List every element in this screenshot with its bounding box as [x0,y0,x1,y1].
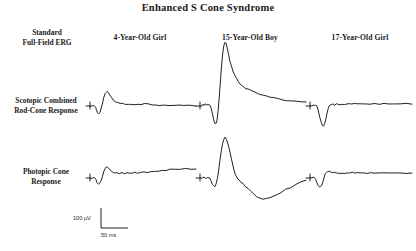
erg-figure: Enhanced S Cone Syndrome Standard Full-F… [0,0,416,251]
scale-bar-horizontal-label: 50 ms [101,232,116,238]
erg-waveform-path [306,171,412,187]
calibration-scale-bar [97,207,131,233]
erg-trace-photopic-17-year-old-girl [0,0,416,251]
scale-bar-vertical-label: 100 µV [73,215,91,221]
